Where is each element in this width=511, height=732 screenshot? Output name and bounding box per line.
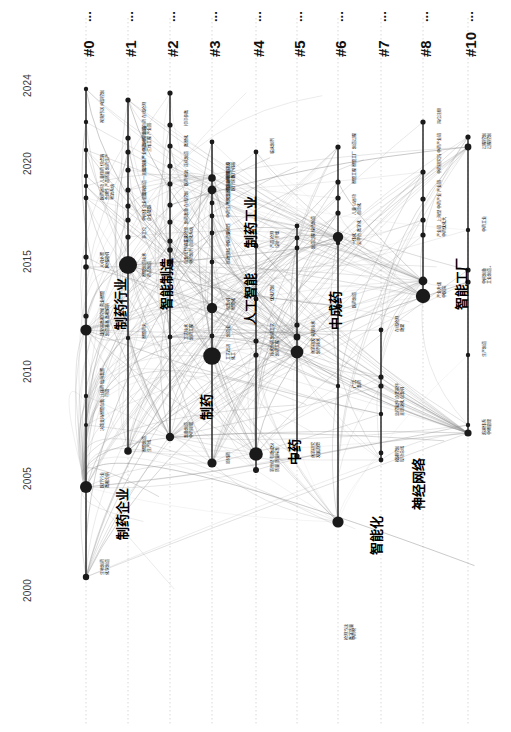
topic-node[interactable] — [335, 195, 340, 200]
topic-node[interactable] — [83, 264, 89, 270]
topic-node[interactable] — [126, 336, 130, 340]
topic-node[interactable] — [125, 149, 130, 154]
topic-node[interactable] — [167, 90, 172, 95]
topic-node[interactable] — [84, 148, 88, 152]
topic-node[interactable] — [335, 144, 340, 149]
topic-node[interactable] — [125, 97, 130, 102]
topic-node[interactable] — [295, 246, 300, 251]
topic-node[interactable] — [167, 163, 172, 168]
topic-node[interactable] — [84, 87, 88, 91]
topic-node[interactable] — [378, 374, 383, 379]
topic-node[interactable] — [207, 458, 216, 467]
topic-node[interactable] — [336, 384, 340, 388]
topic-node[interactable] — [332, 516, 343, 527]
topic-series-n8[interactable] — [416, 119, 430, 303]
topic-node[interactable] — [379, 458, 384, 463]
column-header-n2[interactable]: #2 — [164, 40, 181, 57]
topic-node[interactable] — [210, 334, 215, 339]
topic-node[interactable] — [168, 335, 173, 340]
topic-node[interactable] — [125, 234, 130, 239]
topic-node[interactable] — [125, 217, 130, 222]
topic-node[interactable] — [84, 394, 88, 398]
column-header-n3[interactable]: #3 — [206, 40, 223, 57]
topic-node[interactable] — [167, 219, 172, 224]
topic-node[interactable] — [83, 313, 88, 318]
topic-node[interactable] — [378, 383, 383, 388]
topic-node[interactable] — [167, 181, 172, 186]
keyword-label: 医药市场 儿童用药 供给端合规性 产品质量 制药生产物流系统 — [101, 154, 115, 200]
topic-node[interactable] — [119, 256, 137, 274]
topic-node[interactable] — [335, 210, 340, 215]
topic-node[interactable] — [210, 260, 215, 265]
topic-node[interactable] — [167, 238, 172, 243]
topic-node[interactable] — [249, 447, 263, 461]
topic-node[interactable] — [167, 202, 172, 207]
topic-node[interactable] — [294, 322, 299, 327]
topic-node[interactable] — [167, 247, 173, 253]
column-header-n1[interactable]: #1 — [122, 40, 139, 57]
topic-node[interactable] — [295, 224, 300, 229]
topic-node[interactable] — [167, 143, 172, 148]
topic-node[interactable] — [420, 119, 425, 124]
topic-node[interactable] — [465, 134, 470, 139]
topic-node[interactable] — [419, 277, 428, 286]
topic-node[interactable] — [84, 174, 88, 178]
topic-node[interactable] — [420, 217, 425, 222]
topic-node[interactable] — [84, 184, 88, 188]
topic-node[interactable] — [125, 187, 130, 192]
topic-node[interactable] — [420, 169, 425, 174]
topic-node[interactable] — [335, 179, 340, 184]
topic-node[interactable] — [253, 338, 258, 343]
topic-node[interactable] — [295, 236, 300, 241]
topic-node[interactable] — [294, 334, 301, 341]
topic-node[interactable] — [254, 150, 259, 155]
column-header-n8[interactable]: #8 — [417, 40, 434, 57]
topic-node[interactable] — [466, 353, 470, 357]
topic-series-n0[interactable] — [80, 87, 92, 580]
topic-node[interactable] — [291, 346, 304, 359]
topic-node[interactable] — [203, 347, 221, 365]
topic-node[interactable] — [416, 289, 430, 303]
topic-node[interactable] — [124, 447, 132, 455]
keyword-label: 民政领域 中医药学 — [227, 231, 232, 264]
topic-link-arc — [338, 172, 423, 237]
topic-node[interactable] — [166, 433, 174, 441]
topic-node[interactable] — [210, 140, 215, 145]
topic-node[interactable] — [80, 324, 91, 335]
column-header-n0[interactable]: #0 — [80, 40, 97, 57]
topic-node[interactable] — [125, 203, 130, 208]
topic-node[interactable] — [253, 352, 258, 357]
topic-node[interactable] — [84, 120, 88, 124]
topic-node[interactable] — [84, 196, 89, 201]
topic-node[interactable] — [167, 122, 172, 127]
topic-node[interactable] — [420, 196, 425, 201]
topic-node[interactable] — [253, 467, 259, 473]
topic-node[interactable] — [208, 186, 217, 195]
topic-node[interactable] — [125, 167, 130, 172]
column-header-n10[interactable]: #10 — [462, 32, 479, 57]
topic-node[interactable] — [420, 232, 425, 237]
topic-node[interactable] — [379, 328, 384, 333]
topic-node[interactable] — [210, 231, 215, 236]
topic-node[interactable] — [210, 214, 215, 219]
topic-node[interactable] — [208, 174, 216, 182]
topic-node[interactable] — [210, 201, 215, 206]
column-header-n6[interactable]: #6 — [332, 40, 349, 57]
column-header-n5[interactable]: #5 — [291, 40, 308, 57]
topic-node[interactable] — [80, 481, 92, 493]
topic-node[interactable] — [466, 423, 470, 427]
topic-node[interactable] — [84, 423, 88, 427]
topic-node[interactable] — [125, 135, 130, 140]
topic-node[interactable] — [83, 574, 89, 580]
topic-node[interactable] — [465, 144, 472, 151]
topic-node[interactable] — [83, 254, 88, 259]
topic-node[interactable] — [466, 228, 470, 232]
topic-node[interactable] — [464, 429, 471, 436]
keyword-label: 追溯体系中期管理 — [483, 419, 493, 435]
topic-node[interactable] — [333, 232, 343, 242]
column-header-n4[interactable]: #4 — [250, 40, 267, 57]
topic-node[interactable] — [379, 451, 384, 456]
column-header-n7[interactable]: #7 — [375, 40, 392, 57]
topic-node[interactable] — [379, 412, 383, 416]
topic-node[interactable] — [207, 303, 217, 313]
